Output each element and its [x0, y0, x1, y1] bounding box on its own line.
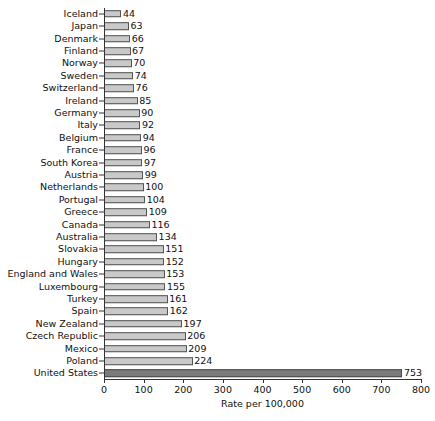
bar-value-label: 134	[159, 232, 177, 242]
category-label: Ireland	[65, 96, 98, 106]
category-label: Poland	[66, 356, 98, 366]
bar[interactable]	[104, 258, 164, 266]
bar[interactable]	[104, 97, 138, 105]
bar[interactable]	[104, 60, 132, 68]
bar[interactable]	[104, 208, 147, 216]
bar-value-label: 155	[167, 282, 185, 292]
x-axis-tick-label: 300	[214, 384, 232, 395]
x-axis-tick-label: 600	[333, 384, 351, 395]
x-axis-tick	[342, 379, 343, 383]
bar-row: Greece109	[0, 206, 435, 218]
bar-row: South Korea97	[0, 156, 435, 168]
bar[interactable]	[104, 246, 164, 254]
bar[interactable]	[104, 283, 165, 291]
category-label: Portugal	[59, 195, 98, 205]
category-label: Austria	[64, 170, 98, 180]
bar-row: England and Wales153	[0, 268, 435, 280]
y-axis-line	[104, 8, 105, 379]
category-label: Italy	[77, 120, 98, 130]
bar[interactable]	[104, 332, 186, 340]
x-axis-tick-label: 200	[174, 384, 192, 395]
category-label: Finland	[64, 46, 98, 56]
bar-row: Denmark66	[0, 32, 435, 44]
x-axis-tick	[223, 379, 224, 383]
bar[interactable]	[104, 171, 143, 179]
x-axis-tick-label: 700	[372, 384, 390, 395]
bar[interactable]	[104, 370, 402, 378]
bar-value-label: 90	[141, 108, 153, 118]
bar-value-label: 206	[187, 331, 205, 341]
bar[interactable]	[104, 184, 144, 192]
x-axis-tick	[421, 379, 422, 383]
bar-row: Czech Republic206	[0, 330, 435, 342]
category-label: Spain	[71, 306, 98, 316]
category-label: Sweden	[60, 71, 98, 81]
bar-row: Germany90	[0, 107, 435, 119]
category-label: Switzerland	[43, 83, 98, 93]
bar[interactable]	[104, 308, 168, 316]
bar[interactable]	[104, 146, 142, 154]
bar[interactable]	[104, 345, 187, 353]
bar-value-label: 209	[188, 344, 206, 354]
bar[interactable]	[104, 295, 168, 303]
bar-row: Turkey161	[0, 293, 435, 305]
bar[interactable]	[104, 159, 142, 167]
bar[interactable]	[104, 84, 134, 92]
category-label: South Korea	[40, 158, 98, 168]
bar-row: Luxembourg155	[0, 280, 435, 292]
x-axis-tick-label: 100	[135, 384, 153, 395]
category-label: Denmark	[54, 34, 98, 44]
bar-value-label: 97	[144, 158, 156, 168]
bar[interactable]	[104, 320, 182, 328]
bar-value-label: 109	[149, 207, 167, 217]
category-label: Norway	[62, 58, 98, 68]
x-axis-tick	[302, 379, 303, 383]
category-label: Luxembourg	[39, 282, 98, 292]
x-axis-title: Rate per 100,000	[104, 398, 421, 409]
bar-value-label: 153	[166, 269, 184, 279]
bar-row: Mexico209	[0, 342, 435, 354]
bar[interactable]	[104, 357, 193, 365]
bar-row: Hungary152	[0, 256, 435, 268]
bar[interactable]	[104, 22, 129, 30]
bar[interactable]	[104, 109, 140, 117]
x-axis-tick	[381, 379, 382, 383]
x-axis-tick	[104, 379, 105, 383]
bar-row: Spain162	[0, 305, 435, 317]
x-axis-tick-label: 500	[293, 384, 311, 395]
bar[interactable]	[104, 196, 145, 204]
bar-value-label: 116	[151, 220, 169, 230]
bar-chart: Iceland44Japan63Denmark66Finland67Norway…	[0, 0, 435, 421]
bar-row: Switzerland76	[0, 82, 435, 94]
bar[interactable]	[104, 134, 141, 142]
bar-row: Iceland44	[0, 8, 435, 20]
bar[interactable]	[104, 47, 131, 55]
bar-row: Netherlands100	[0, 181, 435, 193]
category-label: Turkey	[67, 294, 98, 304]
bar[interactable]	[104, 10, 121, 18]
bar[interactable]	[104, 270, 165, 278]
category-label: Iceland	[64, 9, 98, 19]
bar-value-label: 63	[130, 21, 142, 31]
bar[interactable]	[104, 35, 130, 43]
bar-value-label: 162	[170, 306, 188, 316]
bar-value-label: 76	[136, 83, 148, 93]
category-label: Japan	[72, 21, 99, 31]
category-label: Germany	[54, 108, 98, 118]
bar-row: Poland224	[0, 355, 435, 367]
bar[interactable]	[104, 72, 133, 80]
bar-row: France96	[0, 144, 435, 156]
bar[interactable]	[104, 233, 157, 241]
bar-row: Norway70	[0, 57, 435, 69]
bar-row: Italy92	[0, 119, 435, 131]
bar-value-label: 92	[142, 120, 154, 130]
bar[interactable]	[104, 122, 140, 130]
bar[interactable]	[104, 221, 150, 229]
bar-row: Belgium94	[0, 132, 435, 144]
bar-value-label: 70	[133, 58, 145, 68]
bar-value-label: 224	[194, 356, 212, 366]
category-label: Slovakia	[58, 244, 98, 254]
bar-row: Slovakia151	[0, 243, 435, 255]
category-label: Mexico	[65, 344, 98, 354]
bar-value-label: 151	[165, 244, 183, 254]
